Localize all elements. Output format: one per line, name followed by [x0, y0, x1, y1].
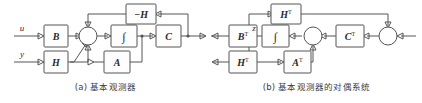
block-minus-h-label: −H [134, 9, 149, 20]
block-c-label: C [165, 31, 172, 42]
sum-junction-right [379, 27, 397, 45]
caption-a: (a) 基本观测器 [0, 80, 211, 92]
signal-z-label: z [251, 23, 256, 33]
diagram-panel-b: HT BT ∫ CT HT AT z (b) 基本观测器的对偶系统 [211, 0, 422, 103]
figure-container: B H ∫ C A −H u y (a) 基本观测器 [0, 0, 422, 103]
node-integrator-output [140, 34, 143, 37]
wire-htop-to-sumright [301, 14, 388, 26]
input-y-label: y [19, 49, 24, 59]
block-integrator-label: ∫ [273, 30, 278, 44]
input-u-label: u [20, 23, 25, 33]
block-h-label: H [51, 57, 61, 68]
diagram-panel-a: B H ∫ C A −H u y (a) 基本观测器 [0, 0, 211, 103]
wire-h-to-sum [68, 44, 86, 62]
arrowhead-a-out [88, 59, 94, 65]
diagram-a-canvas: B H ∫ C A −H u y [0, 0, 211, 80]
wire-minush-to-sum [88, 14, 126, 26]
sum-junction-left [304, 27, 322, 45]
block-b-label: B [52, 31, 60, 42]
sum-junction-main [79, 27, 97, 45]
block-integrator-label: ∫ [121, 30, 126, 44]
block-a-label: A [113, 57, 121, 68]
diagram-b-canvas: HT BT ∫ CT HT AT z [211, 0, 422, 80]
caption-b: (b) 基本观测器的对偶系统 [211, 80, 422, 92]
